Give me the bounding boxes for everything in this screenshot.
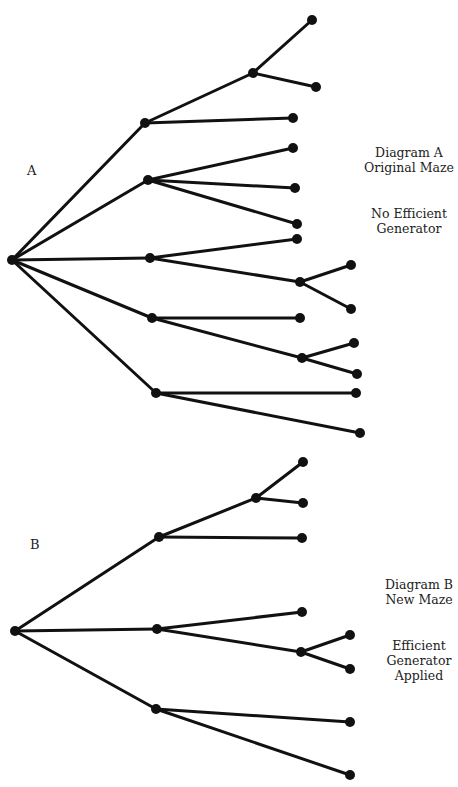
tree-node (145, 253, 155, 263)
tree-node (288, 113, 298, 123)
tree-node (292, 234, 302, 244)
tree-node (151, 388, 161, 398)
tree-node (297, 607, 307, 617)
tree-edge (152, 318, 302, 358)
tree-edge (12, 258, 150, 260)
tree-node (297, 353, 307, 363)
tree-node (251, 493, 261, 503)
tree-node (288, 143, 298, 153)
tree-node (297, 533, 307, 543)
tree-node (296, 647, 306, 657)
tree-node (307, 15, 317, 25)
tree-edge (12, 123, 145, 260)
diagram-a-letter: A (27, 163, 36, 178)
tree-edge (300, 282, 351, 309)
tree-edge (15, 629, 157, 631)
tree-node (154, 532, 164, 542)
tree-edge (150, 239, 297, 258)
caption-line: Generator (364, 653, 458, 668)
caption-line: Generator (354, 221, 458, 236)
tree-node (151, 704, 161, 714)
diagram-b-note: Efficient Generator Applied (364, 638, 458, 683)
tree-edge (256, 462, 303, 498)
tree-node (143, 175, 153, 185)
caption-line: No Efficient (354, 206, 458, 221)
tree-edge (150, 258, 300, 282)
caption-line: New Maze (364, 592, 458, 607)
tree-edge (301, 652, 350, 669)
tree-edge (301, 635, 350, 652)
tree-node (311, 82, 321, 92)
tree-edge (12, 260, 152, 318)
tree-node (346, 304, 356, 314)
diagram-b-letter: B (30, 537, 40, 552)
tree-edge (159, 498, 256, 537)
diagram-b-title: Diagram B New Maze (364, 577, 458, 607)
tree-node (352, 369, 362, 379)
tree-node (147, 313, 157, 323)
tree-node (295, 277, 305, 287)
tree-node (349, 338, 359, 348)
caption-line: Efficient (364, 638, 458, 653)
tree-edge (302, 358, 357, 374)
tree-node (345, 770, 355, 780)
tree-edge (12, 260, 156, 393)
tree-node (346, 260, 356, 270)
diagram-a-title: Diagram A Original Maze (354, 145, 458, 175)
tree-node (7, 255, 17, 265)
tree-node (351, 388, 361, 398)
caption-line: Diagram A (354, 145, 458, 160)
tree-node (345, 664, 355, 674)
tree-edge (159, 537, 302, 538)
tree-node (295, 313, 305, 323)
tree-node (248, 68, 258, 78)
tree-node (345, 717, 355, 727)
tree-node (290, 183, 300, 193)
tree-node (152, 624, 162, 634)
tree-edge (256, 498, 303, 503)
tree-edge (253, 20, 312, 73)
tree-node (298, 498, 308, 508)
tree-edge (148, 148, 293, 180)
tree-node (292, 219, 302, 229)
tree-edge (15, 631, 156, 709)
tree-node (140, 118, 150, 128)
tree-node (345, 630, 355, 640)
tree-edge (145, 73, 253, 123)
diagram-b-tree (10, 457, 355, 780)
diagram-a-tree (7, 15, 365, 438)
tree-node (10, 626, 20, 636)
tree-edge (157, 612, 302, 629)
caption-line: Original Maze (354, 160, 458, 175)
caption-line: Diagram B (364, 577, 458, 592)
caption-line: Applied (364, 668, 458, 683)
tree-node (355, 428, 365, 438)
tree-edge (156, 393, 360, 433)
tree-node (298, 457, 308, 467)
tree-edge (302, 343, 354, 358)
tree-edge (157, 629, 301, 652)
diagram-a-note: No Efficient Generator (354, 206, 458, 236)
tree-edge (300, 265, 351, 282)
tree-edge (253, 73, 316, 87)
tree-edge (145, 118, 293, 123)
